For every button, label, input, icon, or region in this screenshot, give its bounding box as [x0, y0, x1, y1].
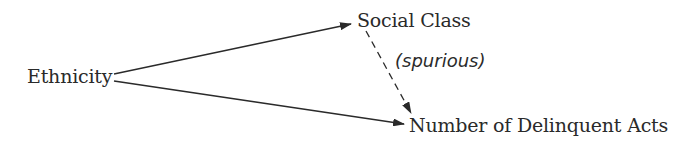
node-social-class: Social Class [357, 11, 471, 30]
diagram-canvas: Ethnicity Social Class (spurious) Number… [0, 0, 688, 146]
edge-label-spurious: (spurious) [395, 52, 485, 70]
edge-ethnicity-to-delinquent-acts [114, 81, 404, 124]
node-number-of-delinquent-acts: Number of Delinquent Acts [409, 116, 668, 135]
edge-social-class-to-delinquent-acts-dashed [366, 31, 411, 113]
edge-ethnicity-to-social-class [114, 24, 351, 74]
node-ethnicity: Ethnicity [27, 67, 112, 86]
